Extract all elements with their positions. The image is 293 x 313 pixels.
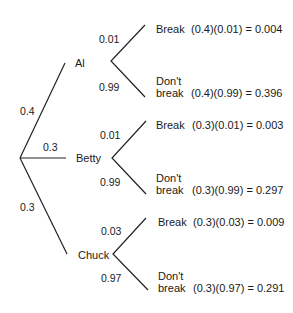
outcome-al-break: Break <box>156 23 185 35</box>
calc-betty-break: (0.3)(0.01) = 0.003 <box>192 119 283 131</box>
outcome-chuck-dont-2: break <box>158 282 186 294</box>
calc-al-break: (0.4)(0.01) = 0.004 <box>191 23 282 35</box>
calc-betty-dont-break: (0.3)(0.99) = 0.297 <box>192 184 283 196</box>
outcome-chuck-break: Break <box>158 216 187 228</box>
prob-chuck-break: 0.03 <box>101 225 121 237</box>
calc-chuck-break: (0.3)(0.03) = 0.009 <box>193 216 284 228</box>
outcome-betty-dont-1: Don't <box>156 172 181 184</box>
calc-al-dont-break: (0.4)(0.99) = 0.396 <box>191 87 282 99</box>
tree-lines <box>0 0 293 313</box>
node-betty: Betty <box>76 152 101 164</box>
prob-chuck: 0.3 <box>20 201 35 213</box>
prob-al: 0.4 <box>20 105 35 117</box>
calc-chuck-dont-break: (0.3)(0.97) = 0.291 <box>193 282 284 294</box>
prob-betty-break: 0.01 <box>100 129 120 141</box>
outcome-al-dont-1: Don't <box>156 75 181 87</box>
outcome-al-dont-2: break <box>156 87 184 99</box>
outcome-chuck-dont-1: Don't <box>158 270 183 282</box>
outcome-betty-break: Break <box>156 119 185 131</box>
prob-betty: 0.3 <box>43 141 58 153</box>
node-al: Al <box>75 57 85 69</box>
prob-chuck-dont-break: 0.97 <box>101 272 121 284</box>
outcome-betty-dont-2: break <box>156 184 184 196</box>
prob-al-break: 0.01 <box>99 33 119 45</box>
prob-al-dont-break: 0.99 <box>99 81 119 93</box>
node-chuck: Chuck <box>78 249 109 261</box>
prob-betty-dont-break: 0.99 <box>100 176 120 188</box>
